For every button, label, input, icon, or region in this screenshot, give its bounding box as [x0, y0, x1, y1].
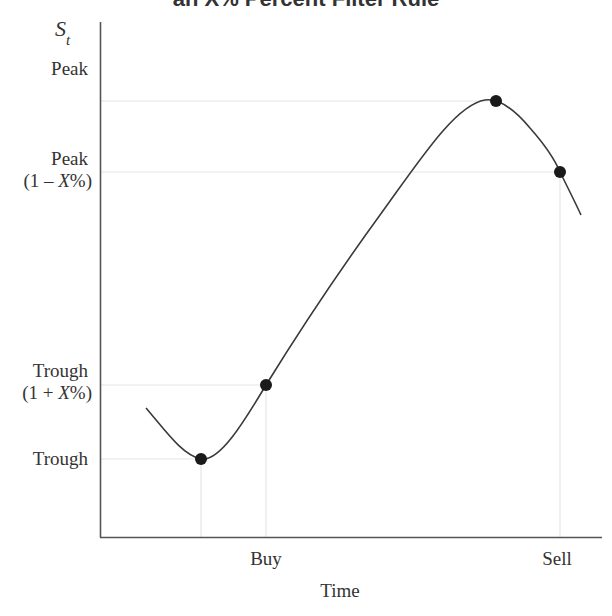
buy-dot	[260, 379, 272, 391]
trough-dot	[195, 453, 207, 465]
x-tick-sell: Sell	[527, 548, 587, 570]
y-label-peak-minus: Peak (1 – X%)	[0, 148, 92, 192]
y-label-peak-minus-line1: Peak	[0, 148, 88, 170]
y-label-trough: Trough	[0, 448, 88, 470]
price-curve	[146, 100, 581, 459]
y-label-trough-plus: Trough (1 + X%)	[0, 360, 92, 404]
guide-lines	[101, 101, 560, 537]
x-axis-title: Time	[290, 580, 390, 602]
x-tick-buy: Buy	[236, 548, 296, 570]
axes	[100, 22, 602, 538]
y-label-trough-plus-line1: Trough	[0, 360, 88, 382]
y-label-peak-text: Peak	[0, 58, 88, 80]
peak-dot	[490, 95, 502, 107]
y-label-peak: Peak	[0, 58, 88, 80]
sell-dot	[554, 166, 566, 178]
chart-plot	[0, 0, 612, 616]
y-label-peak-minus-line2: (1 – X%)	[0, 170, 92, 192]
y-label-trough-plus-line2: (1 + X%)	[0, 382, 92, 404]
y-label-trough-text: Trough	[0, 448, 88, 470]
